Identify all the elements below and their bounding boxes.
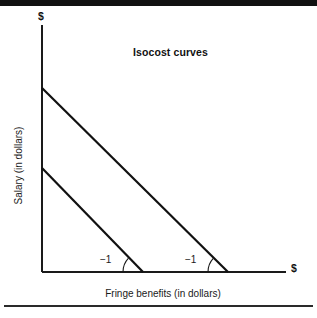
figure-container: $ $ Isocost curves Salary (in dollars) F… bbox=[0, 0, 317, 318]
chart-title: Isocost curves bbox=[133, 46, 208, 58]
x-axis-label: Fringe benefits (in dollars) bbox=[40, 288, 286, 299]
angle-arc-lower bbox=[123, 258, 129, 272]
angle-arc-upper bbox=[208, 258, 214, 272]
isocost-line-upper bbox=[42, 88, 228, 272]
bottom-border-rule bbox=[4, 305, 313, 307]
isocost-line-lower bbox=[42, 168, 143, 272]
y-axis-dollar-cap: $ bbox=[38, 10, 44, 22]
slope-annotation-upper: −1 bbox=[185, 254, 196, 265]
slope-annotation-lower: −1 bbox=[100, 254, 111, 265]
y-axis-label: Salary (in dollars) bbox=[13, 101, 24, 231]
x-axis-dollar-cap: $ bbox=[291, 262, 297, 274]
